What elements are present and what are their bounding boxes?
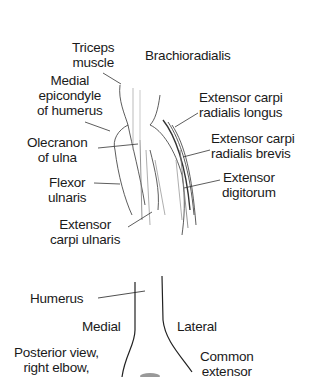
label-common-extensor: Common extensor bbox=[200, 349, 254, 377]
label-line: Humerus bbox=[30, 291, 83, 306]
label-line: radialis longus bbox=[199, 105, 283, 120]
label-line: Common bbox=[200, 349, 254, 364]
label-view: Posterior view, right elbow, bbox=[14, 345, 99, 375]
label-line: Extensor bbox=[50, 217, 120, 232]
label-medial: Medial bbox=[82, 319, 121, 334]
label-line: muscle bbox=[72, 55, 114, 70]
label-humerus: Humerus bbox=[30, 291, 83, 306]
label-line: Flexor bbox=[48, 175, 86, 190]
label-line: Olecranon bbox=[27, 135, 88, 150]
label-line: Extensor carpi bbox=[211, 131, 295, 146]
label-line: Brachioradialis bbox=[145, 48, 231, 63]
label-line: of humerus bbox=[37, 103, 103, 118]
label-ecu: Extensor carpi ulnaris bbox=[50, 217, 120, 247]
label-flexor-ulnaris: Flexor ulnaris bbox=[48, 175, 86, 205]
label-lateral: Lateral bbox=[177, 319, 217, 334]
label-line: Medial bbox=[37, 73, 103, 88]
label-line: ulnaris bbox=[48, 190, 86, 205]
label-line: Medial bbox=[82, 319, 121, 334]
label-line: Triceps bbox=[72, 40, 114, 55]
label-line: Posterior view, bbox=[14, 345, 99, 360]
label-extensor-digitorum: Extensor digitorum bbox=[222, 170, 276, 200]
label-triceps: Triceps muscle bbox=[72, 40, 114, 70]
muscle-drawing bbox=[114, 85, 196, 235]
label-line: Extensor carpi bbox=[199, 90, 283, 105]
label-line: digitorum bbox=[222, 185, 276, 200]
label-medial-epicondyle: Medial epicondyle of humerus bbox=[37, 73, 103, 118]
label-ecrl: Extensor carpi radialis longus bbox=[199, 90, 283, 120]
label-line: epicondyle bbox=[37, 88, 103, 103]
label-line: Extensor bbox=[222, 170, 276, 185]
label-line: right elbow, bbox=[14, 360, 99, 375]
label-olecranon: Olecranon of ulna bbox=[27, 135, 88, 165]
label-line: of ulna bbox=[27, 150, 88, 165]
label-brachioradialis: Brachioradialis bbox=[145, 48, 231, 63]
label-line: extensor bbox=[200, 364, 254, 377]
label-line: Lateral bbox=[177, 319, 217, 334]
label-line: radialis brevis bbox=[211, 146, 295, 161]
label-line: carpi ulnaris bbox=[50, 232, 120, 247]
label-ecrb: Extensor carpi radialis brevis bbox=[211, 131, 295, 161]
